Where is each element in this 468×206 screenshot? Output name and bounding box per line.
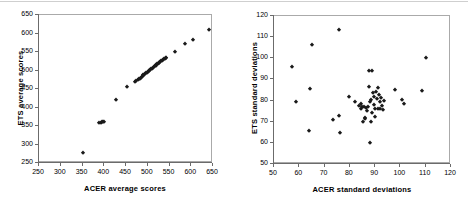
x-axis-tick-label: 350 xyxy=(76,168,88,176)
x-axis-tick xyxy=(298,164,299,167)
y-axis-tick xyxy=(270,15,273,16)
scatter-point xyxy=(393,88,398,93)
scatter-point xyxy=(352,99,357,104)
scatter-point xyxy=(337,131,342,136)
y-axis-tick xyxy=(35,144,38,145)
y-axis-tick xyxy=(35,33,38,34)
scatter-point xyxy=(310,42,315,47)
x-axis-tick-label: 70 xyxy=(320,169,328,177)
scatter-point xyxy=(367,140,372,145)
x-axis-tick-label: 450 xyxy=(119,168,131,176)
y-axis-tick-label: 110 xyxy=(242,32,268,40)
x-axis-tick xyxy=(349,164,350,167)
plot-frame-right xyxy=(273,15,450,163)
y-axis-tick xyxy=(270,36,273,37)
x-axis-tick-label: 650 xyxy=(206,168,218,176)
x-axis-tick xyxy=(60,163,61,166)
scatter-point xyxy=(114,98,119,103)
y-axis-line xyxy=(38,14,39,162)
y-axis-tick xyxy=(35,88,38,89)
y-axis-tick-label: 550 xyxy=(7,47,33,55)
x-axis-tick xyxy=(147,163,148,166)
y-axis-tick-label: 80 xyxy=(242,96,268,104)
y-axis-tick xyxy=(270,78,273,79)
chart-panel-acer-ets-standard-deviations: ACER standard deviations ETS standard de… xyxy=(234,0,468,206)
x-axis-title-left: ACER average scores xyxy=(84,184,166,193)
scatter-point xyxy=(81,151,86,156)
scatter-point xyxy=(294,100,299,105)
scatter-point xyxy=(191,37,196,42)
scatter-point xyxy=(183,42,188,47)
scatter-point xyxy=(124,85,129,90)
x-axis-tick xyxy=(190,163,191,166)
scatter-point xyxy=(164,55,169,60)
y-axis-tick-label: 350 xyxy=(7,121,33,129)
y-axis-tick xyxy=(270,57,273,58)
x-axis-tick xyxy=(38,163,39,166)
y-axis-tick xyxy=(270,100,273,101)
x-axis-tick xyxy=(399,164,400,167)
y-axis-tick xyxy=(35,107,38,108)
x-axis-tick-label: 250 xyxy=(32,168,44,176)
x-axis-tick xyxy=(450,164,451,167)
x-axis-tick xyxy=(103,163,104,166)
markers-layer-left xyxy=(39,15,211,161)
scatter-point xyxy=(290,65,295,70)
scatter-point xyxy=(347,95,352,100)
y-axis-tick-label: 120 xyxy=(242,11,268,19)
figure-root: ACER average scores ETS average scores 2… xyxy=(0,0,468,206)
x-axis-tick-label: 60 xyxy=(294,169,302,177)
y-axis-tick xyxy=(270,142,273,143)
scatter-point xyxy=(102,119,107,124)
y-axis-tick-label: 600 xyxy=(7,29,33,37)
y-axis-tick-label: 400 xyxy=(7,103,33,111)
x-axis-tick-label: 400 xyxy=(97,168,109,176)
scatter-point xyxy=(402,101,407,106)
y-axis-tick-label: 100 xyxy=(242,53,268,61)
y-axis-tick-label: 500 xyxy=(7,66,33,74)
y-axis-tick xyxy=(35,125,38,126)
x-axis-tick-label: 80 xyxy=(345,169,353,177)
y-axis-tick xyxy=(35,70,38,71)
scatter-point xyxy=(381,107,386,112)
x-axis-tick xyxy=(82,163,83,166)
x-axis-tick-label: 50 xyxy=(269,169,277,177)
plot-frame-left xyxy=(38,14,212,162)
y-axis-tick-label: 450 xyxy=(7,84,33,92)
x-axis-line xyxy=(273,163,450,164)
y-axis-tick-label: 60 xyxy=(242,138,268,146)
y-axis-tick xyxy=(35,51,38,52)
y-axis-tick-label: 300 xyxy=(7,140,33,148)
scatter-point xyxy=(331,118,336,123)
y-axis-tick-label: 90 xyxy=(242,74,268,82)
scatter-point xyxy=(366,84,371,89)
x-axis-tick-label: 300 xyxy=(54,168,66,176)
y-axis-tick xyxy=(270,121,273,122)
x-axis-tick-label: 110 xyxy=(419,169,430,177)
x-axis-tick-label: 90 xyxy=(370,169,378,177)
y-axis-tick-label: 50 xyxy=(242,159,268,167)
x-axis-tick-label: 100 xyxy=(394,169,406,177)
scatter-point xyxy=(423,56,428,61)
y-axis-tick-label: 250 xyxy=(7,158,33,166)
scatter-point xyxy=(337,113,342,118)
chart-panel-acer-ets-average-scores: ACER average scores ETS average scores 2… xyxy=(0,0,234,206)
x-axis-tick xyxy=(169,163,170,166)
x-axis-tick xyxy=(212,163,213,166)
x-axis-title-right: ACER standard deviations xyxy=(313,185,412,194)
scatter-point xyxy=(370,69,375,74)
y-axis-line xyxy=(273,15,274,163)
scatter-point xyxy=(337,28,342,33)
scatter-point xyxy=(207,28,211,33)
scatter-point xyxy=(420,89,425,94)
x-axis-tick xyxy=(125,163,126,166)
x-axis-tick xyxy=(324,164,325,167)
y-axis-tick-label: 650 xyxy=(7,10,33,18)
x-axis-tick-label: 550 xyxy=(163,168,175,176)
scatter-point xyxy=(373,115,378,120)
scatter-point xyxy=(306,129,311,134)
scatter-point xyxy=(173,49,178,54)
scatter-point xyxy=(376,86,381,91)
x-axis-tick-label: 600 xyxy=(184,168,196,176)
x-axis-tick xyxy=(273,164,274,167)
